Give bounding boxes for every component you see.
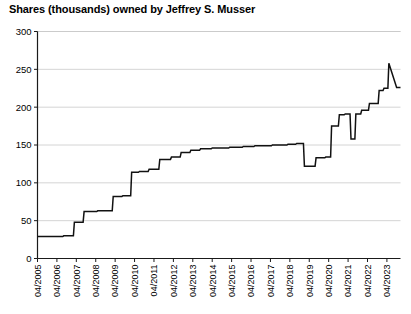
x-tick-label: 04/2019	[305, 265, 315, 298]
data-series-line	[38, 63, 401, 236]
y-tick-label: 0	[26, 253, 31, 264]
x-tick-label: 04/2017	[266, 265, 276, 298]
x-tick-label: 04/2008	[91, 265, 101, 298]
x-tick-label: 04/2009	[110, 265, 120, 298]
y-tick-label: 100	[16, 177, 32, 188]
x-tick-label: 04/2020	[324, 265, 334, 298]
y-axis-ticks: 050100150200250300	[16, 26, 38, 264]
x-tick-label: 04/2021	[343, 265, 353, 298]
y-tick-label: 250	[16, 64, 32, 75]
x-tick-label: 04/2018	[285, 265, 295, 298]
x-tick-label: 04/2006	[52, 265, 62, 298]
x-tick-label: 04/2012	[169, 265, 179, 298]
x-tick-label: 04/2022	[363, 265, 373, 298]
chart-plot-area: 050100150200250300 04/200504/200604/2007…	[0, 0, 411, 314]
y-tick-label: 300	[16, 26, 32, 37]
y-tick-label: 50	[21, 215, 32, 226]
x-tick-label: 04/2007	[72, 265, 82, 298]
x-tick-label: 04/2010	[130, 265, 140, 298]
x-tick-label: 04/2005	[33, 265, 43, 298]
chart-container: Shares (thousands) owned by Jeffrey S. M…	[0, 0, 411, 314]
x-tick-label: 04/2016	[246, 265, 256, 298]
x-tick-label: 04/2023	[382, 265, 392, 298]
x-tick-label: 04/2011	[149, 265, 159, 297]
x-tick-label: 04/2015	[227, 265, 237, 298]
x-tick-label: 04/2013	[188, 265, 198, 298]
y-tick-label: 200	[16, 102, 32, 113]
x-axis-ticks: 04/200504/200604/200704/200804/200904/20…	[33, 259, 392, 298]
x-tick-label: 04/2014	[208, 265, 218, 298]
gridlines	[38, 32, 401, 221]
y-tick-label: 150	[16, 139, 32, 150]
